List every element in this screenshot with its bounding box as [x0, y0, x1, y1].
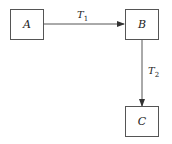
node-b-label: B	[138, 18, 146, 31]
node-c: C	[125, 106, 159, 137]
edge-a-b-label: T1	[77, 9, 88, 23]
node-a-label: A	[23, 18, 31, 31]
node-c-label: C	[138, 115, 146, 128]
node-a: A	[10, 9, 44, 40]
edge-b-c-label: T2	[148, 65, 159, 79]
node-b: B	[125, 9, 159, 40]
